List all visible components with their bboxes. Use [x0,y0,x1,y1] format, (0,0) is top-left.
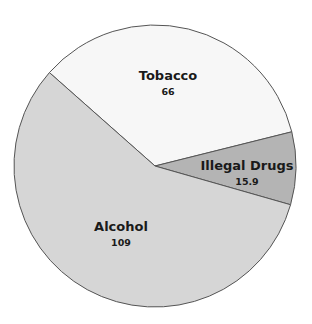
label-alcohol-name: Alcohol [94,219,148,234]
pie-chart: Tobacco 66 Illegal Drugs 15.9 Alcohol 10… [0,0,312,324]
label-tobacco-value: 66 [161,86,175,97]
label-drugs-value: 15.9 [235,176,258,187]
label-alcohol-value: 109 [111,237,131,248]
label-drugs-name: Illegal Drugs [200,158,293,173]
label-tobacco-name: Tobacco [139,68,198,83]
